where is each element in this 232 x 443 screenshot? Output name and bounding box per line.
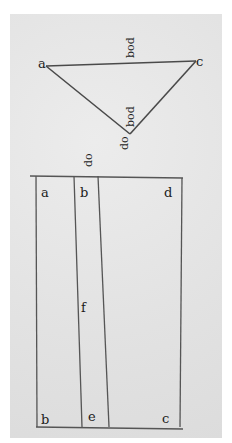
- rect-label-top-right: d: [164, 185, 172, 200]
- rectangle-bottom-edge: [36, 427, 183, 429]
- rect-label-top-middle: b: [80, 185, 88, 200]
- triangle: [46, 61, 196, 134]
- divider-right: [98, 176, 109, 427]
- rectangle-left-edge: [36, 176, 37, 427]
- rect-label-middle: f: [81, 300, 87, 315]
- rect-label-bottom-right: c: [162, 411, 169, 426]
- triangle-right-edge: [130, 61, 196, 134]
- triangle-top-edge: [46, 61, 196, 66]
- bottom-vertex-annotation: do: [118, 136, 131, 150]
- geometric-diagram: a c bod bod do do a b d f b e c: [0, 0, 232, 443]
- inner-annotation: bod: [124, 106, 137, 127]
- top-edge-annotation: bod: [124, 37, 137, 58]
- vertex-label-a: a: [38, 56, 46, 71]
- rectangle: [30, 176, 183, 429]
- rectangle-top-edge: [30, 176, 183, 178]
- vertex-label-c: c: [196, 54, 203, 69]
- rect-label-bottom-left: b: [41, 412, 49, 427]
- rect-label-bottom-middle: e: [88, 409, 96, 424]
- rect-label-top-left: a: [41, 185, 49, 200]
- above-rectangle-annotation: do: [82, 153, 95, 167]
- triangle-left-edge: [46, 66, 130, 134]
- rectangle-right-edge: [180, 178, 182, 427]
